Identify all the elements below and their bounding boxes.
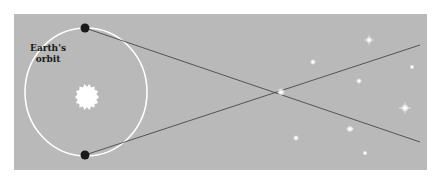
earth-position-bottom [81, 151, 90, 160]
star-icon [346, 126, 354, 133]
star-icon [410, 65, 415, 70]
near-star-icon [277, 88, 285, 96]
star-icon [363, 151, 368, 156]
sun-icon [75, 84, 99, 110]
star-icon [364, 35, 374, 45]
sight-line-top [85, 28, 420, 142]
star-icon [310, 59, 316, 65]
earth-position-top [81, 24, 90, 33]
star-icon [356, 78, 362, 84]
earth-orbit-label-line2: orbit [28, 54, 68, 65]
star-icon [293, 135, 299, 141]
earth-orbit-label-line1: Earth's [28, 43, 68, 54]
earth-orbit-label: Earth's orbit [28, 43, 68, 65]
star-icon [399, 102, 411, 114]
parallax-diagram [0, 0, 438, 183]
sight-line-bottom [85, 45, 420, 155]
